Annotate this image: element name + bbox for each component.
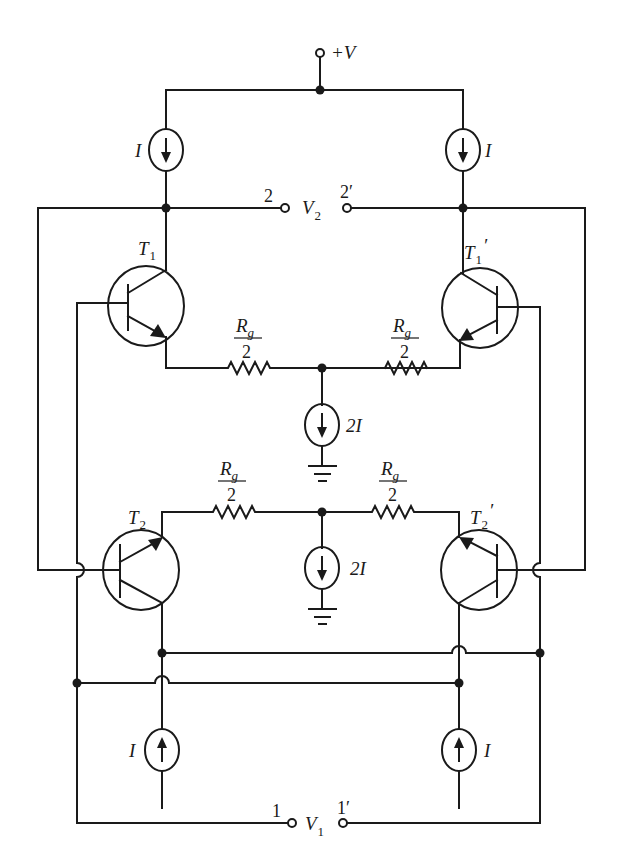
terminal-1-label: 1 xyxy=(272,801,281,821)
input-port: 1 V1 1′ xyxy=(272,798,350,839)
current-source-2i-lower: 2I xyxy=(305,512,368,609)
top-supply: +V xyxy=(166,42,463,95)
output-port: 2 V2 2′ xyxy=(38,182,585,223)
transistor-label: T1 xyxy=(138,238,156,263)
resistor-label-upper-right: Rg 2 xyxy=(391,315,419,362)
terminal-2-prime-label: 2′ xyxy=(340,182,353,202)
terminal-1-prime-label: 1′ xyxy=(337,798,350,818)
svg-text:I: I xyxy=(128,740,137,761)
current-source-top-right: I xyxy=(446,90,493,207)
current-source-bottom-right: I xyxy=(442,683,492,808)
ground-icon xyxy=(309,466,336,481)
resistor-label-upper-left: Rg 2 xyxy=(234,315,262,362)
input-voltage-label: V1 xyxy=(305,813,324,839)
terminal-2-label: 2 xyxy=(264,186,273,206)
svg-text:2: 2 xyxy=(227,485,236,505)
arrow-down-icon xyxy=(317,427,327,438)
arrow-down-icon xyxy=(161,152,171,163)
cross-coupling-wires xyxy=(38,208,585,823)
top-supply-label: +V xyxy=(331,42,358,63)
jumper-left xyxy=(77,303,289,823)
current-label: I xyxy=(134,140,143,161)
svg-text:2: 2 xyxy=(242,342,251,362)
circuit-diagram: +V I I 2 V2 2′ xyxy=(0,0,622,868)
svg-text:2I: 2I xyxy=(350,558,368,579)
current-label: I xyxy=(484,140,493,161)
svg-text:Rg: Rg xyxy=(219,458,239,483)
output-voltage-label: V2 xyxy=(302,197,321,223)
transistor-t1-prime: T1′ xyxy=(442,208,540,368)
junction-dot xyxy=(316,86,325,95)
terminal-1 xyxy=(288,819,296,827)
current-source-2i-upper: 2I xyxy=(305,368,364,466)
svg-text:Rg: Rg xyxy=(235,315,255,340)
transistor-label: T1′ xyxy=(464,235,488,267)
svg-text:2: 2 xyxy=(400,342,409,362)
terminal-1-prime xyxy=(339,819,347,827)
arrow-down-icon xyxy=(317,570,327,581)
resistor-label-lower-right: Rg 2 xyxy=(379,458,407,505)
transistor-label: T2 xyxy=(128,507,146,532)
lower-emitter-network: Rg 2 Rg 2 2I xyxy=(162,458,459,624)
transistor-t2: T2 xyxy=(103,507,179,653)
terminal-2-prime xyxy=(343,204,351,212)
svg-text:Rg: Rg xyxy=(380,458,400,483)
resistor-label-lower-left: Rg 2 xyxy=(218,458,246,505)
svg-text:2I: 2I xyxy=(346,415,364,436)
transistor-t1: T1 xyxy=(78,208,184,368)
current-source-top-left: I xyxy=(134,90,183,207)
top-supply-terminal xyxy=(316,49,324,57)
transistor-label: T2′ xyxy=(470,500,494,532)
svg-text:Rg: Rg xyxy=(392,315,412,340)
ground-icon xyxy=(309,609,336,624)
current-source-bottom-left: I xyxy=(128,653,179,808)
emitter-arrow-icon xyxy=(150,324,166,338)
svg-text:2: 2 xyxy=(388,485,397,505)
arrow-down-icon xyxy=(458,152,468,163)
upper-emitter-network: Rg 2 Rg 2 2I xyxy=(166,315,460,481)
svg-text:I: I xyxy=(483,740,492,761)
terminal-2 xyxy=(281,204,289,212)
